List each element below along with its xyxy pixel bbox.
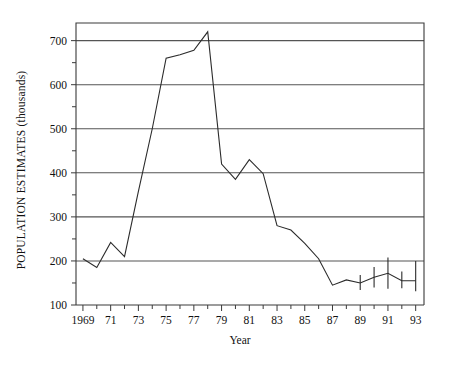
x-tick-label-1985: 85 (299, 314, 311, 326)
x-tick-label-1971: 71 (105, 314, 117, 326)
y-tick-label-300: 300 (50, 211, 68, 223)
x-tick-label-1993: 93 (410, 314, 422, 326)
population-line (83, 32, 416, 285)
x-axis-tick-labels: 1969717375777981838587899193 (71, 314, 421, 326)
x-axis-title: Year (229, 334, 250, 346)
x-tick-label-1977: 77 (188, 314, 200, 326)
population-estimates-chart: 100200300400500600700 196971737577798183… (0, 0, 460, 367)
x-tick-label-1981: 81 (244, 314, 256, 326)
plot-gridlines (76, 41, 424, 261)
x-tick-label-1973: 73 (133, 314, 145, 326)
x-tick-label-1969: 1969 (71, 314, 94, 326)
y-tick-label-700: 700 (50, 35, 68, 47)
x-axis-ticks (83, 305, 416, 311)
y-tick-label-600: 600 (50, 79, 68, 91)
x-tick-label-1979: 79 (216, 314, 228, 326)
y-tick-label-100: 100 (50, 299, 68, 311)
y-tick-label-500: 500 (50, 123, 68, 135)
x-tick-label-1991: 91 (382, 314, 394, 326)
x-tick-label-1983: 83 (271, 314, 283, 326)
x-tick-label-1989: 89 (354, 314, 366, 326)
plot-frame (76, 23, 424, 305)
x-tick-label-1987: 87 (327, 314, 339, 326)
error-bars (360, 257, 415, 291)
data-series-line (83, 32, 416, 285)
y-axis-title: POPULATION ESTIMATES (thousands) (15, 71, 28, 270)
y-tick-label-200: 200 (50, 255, 68, 267)
y-axis-tick-labels: 100200300400500600700 (50, 35, 68, 311)
plot-border (76, 23, 424, 305)
y-tick-label-400: 400 (50, 167, 68, 179)
y-axis-ticks (71, 41, 76, 305)
x-tick-label-1975: 75 (160, 314, 172, 326)
chart-canvas: 100200300400500600700 196971737577798183… (0, 0, 460, 367)
